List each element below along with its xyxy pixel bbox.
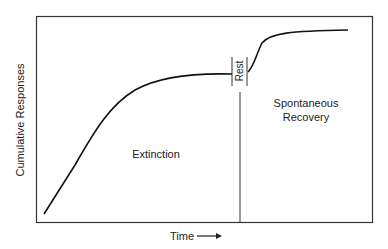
recovery-curve	[248, 30, 348, 72]
recovery-label-line1: Spontaneous	[274, 97, 339, 109]
x-axis-label: Time	[170, 230, 194, 242]
time-arrow-icon	[197, 233, 222, 239]
extinction-curve	[44, 74, 232, 214]
extinction-recovery-diagram: Cumulative Responses Rest Extinction Spo…	[0, 0, 388, 249]
extinction-label: Extinction	[132, 148, 180, 160]
y-axis-label: Cumulative Responses	[14, 63, 26, 177]
recovery-label-line2: Recovery	[283, 111, 330, 123]
rest-label: Rest	[234, 60, 245, 81]
